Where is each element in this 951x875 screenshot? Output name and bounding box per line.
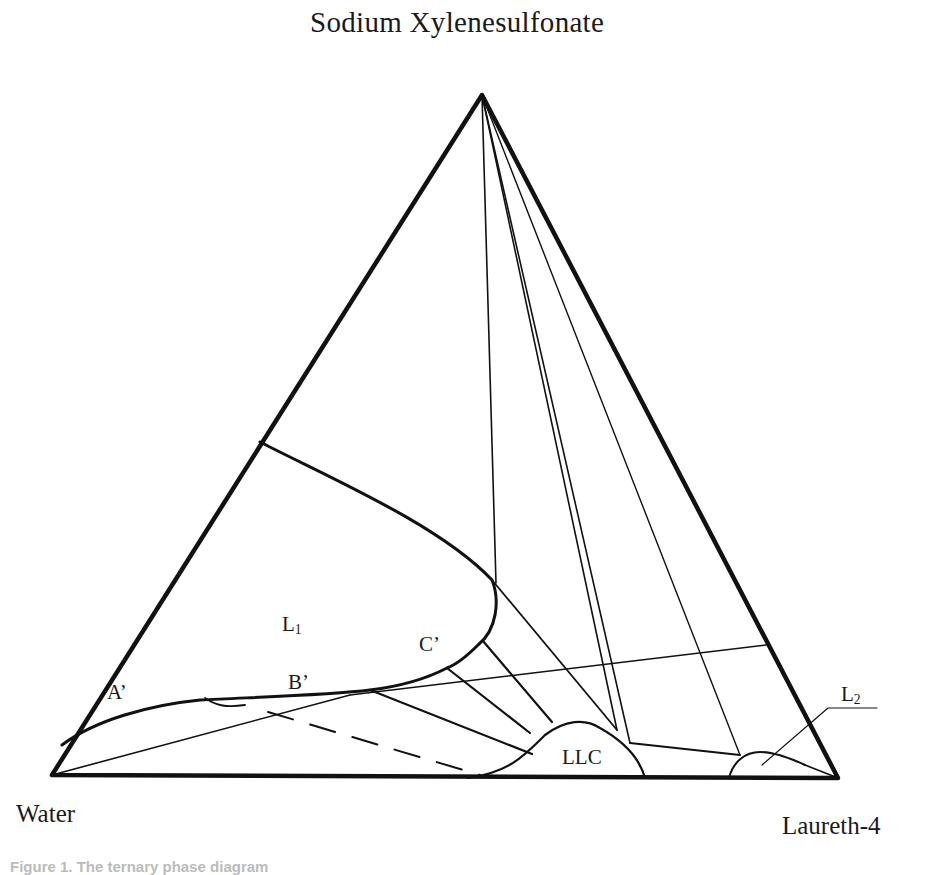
apex-line — [482, 95, 630, 743]
l2-leader — [762, 708, 877, 765]
triangle-outline — [52, 95, 838, 778]
point-label-c: C’ — [419, 632, 440, 657]
region-label-l2: L2 — [841, 682, 861, 708]
region-label-llc: LLC — [562, 745, 602, 770]
figure-caption: Figure 1. The ternary phase diagram — [10, 858, 268, 875]
apex-line — [482, 95, 617, 730]
tie-line — [630, 743, 740, 755]
point-label-a: A’ — [107, 680, 127, 705]
llc-boundary — [468, 722, 645, 778]
tie-line — [370, 690, 532, 754]
point-label-b: B’ — [288, 670, 309, 695]
apex-line — [482, 95, 740, 755]
region-label-l1: L1 — [282, 612, 302, 638]
l2-boundary — [729, 752, 805, 778]
apex-line — [482, 95, 496, 583]
tie-line — [483, 641, 552, 722]
tie-line-long — [350, 645, 766, 695]
l1-boundary — [62, 442, 496, 745]
